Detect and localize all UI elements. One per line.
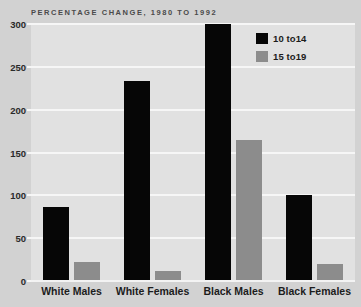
legend-item[interactable]: 10 to14 — [256, 31, 336, 46]
x-axis-tick-label: White Females — [116, 285, 190, 297]
bar — [124, 81, 150, 281]
legend-swatch-icon — [256, 51, 268, 62]
bar — [74, 262, 100, 281]
legend-item-label: 15 to19 — [273, 51, 306, 62]
bar — [43, 207, 69, 281]
bar — [317, 264, 343, 281]
bar-chart: PERCENTAGE CHANGE, 1980 TO 1992 05010015… — [0, 0, 361, 307]
x-axis-tick-label: White Males — [41, 285, 102, 297]
bar — [205, 24, 231, 281]
bar-group — [112, 24, 193, 281]
y-axis-tick-label: 300 — [10, 19, 26, 30]
chart-title: PERCENTAGE CHANGE, 1980 TO 1992 — [31, 8, 217, 17]
y-axis-tick-label: 200 — [10, 104, 26, 115]
y-axis-tick-label: 50 — [15, 233, 26, 244]
y-axis-tick-label: 250 — [10, 61, 26, 72]
bar — [236, 140, 262, 281]
y-axis-tick-label: 0 — [21, 276, 26, 287]
x-axis-baseline — [31, 280, 355, 282]
y-axis-tick-label: 100 — [10, 190, 26, 201]
bar — [286, 195, 312, 281]
chart-legend: 10 to14 15 to19 — [256, 31, 336, 67]
x-axis-tick-label: Black Females — [278, 285, 351, 297]
legend-item[interactable]: 15 to19 — [256, 49, 336, 64]
x-axis-tick-label: Black Males — [203, 285, 263, 297]
bar-group — [31, 24, 112, 281]
y-axis-tick-label: 150 — [10, 147, 26, 158]
legend-swatch-icon — [256, 33, 268, 44]
legend-item-label: 10 to14 — [273, 33, 306, 44]
